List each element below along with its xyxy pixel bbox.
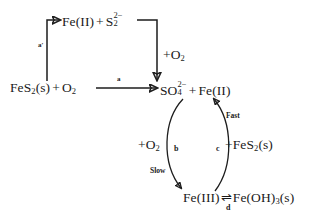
reagent-o2-cycle-symbol: +O: [138, 137, 156, 152]
edge-label-d: d: [226, 204, 230, 212]
plus-upper: +: [96, 14, 104, 29]
arrow-o2-vertical: [137, 20, 157, 80]
species-fe2-upper: Fe(II): [62, 14, 94, 29]
species-sulfate-symbol: SO: [160, 83, 177, 98]
species-pyrite-symbol: FeS: [10, 80, 31, 95]
reagent-fes2-cycle: +FeS2(s): [225, 138, 273, 153]
species-ferrihydroxide-state: (s): [280, 190, 295, 205]
disulfide-charge: 2−2: [113, 11, 122, 27]
speed-label-slow: Slow: [150, 167, 165, 175]
arrow-layer: [0, 0, 314, 219]
species-fe3: Fe(III): [183, 190, 220, 205]
edge-label-c: c: [216, 145, 220, 153]
node-product: SO2−4+Fe(II): [160, 81, 231, 98]
species-pyrite-state: (s): [36, 80, 51, 95]
edge-label-a: a: [117, 76, 121, 83]
reagent-o2-cycle-sub: 2: [156, 143, 160, 153]
reagent-o2-vertical: +O2: [163, 48, 185, 63]
reagent-o2-vertical-sub: 2: [181, 53, 185, 63]
edge-label-b: b: [174, 145, 178, 153]
node-reactant: FeS2(s)+O2: [10, 81, 76, 96]
reagent-fes2-state: (s): [258, 137, 273, 152]
sulfate-subscript: 4: [177, 88, 186, 96]
species-ferrihydroxide-symbol: Fe(OH): [233, 190, 276, 205]
disulfide-subscript: 2: [113, 19, 122, 27]
plus-product: +: [189, 83, 197, 98]
plus-reactant: +: [52, 80, 60, 95]
species-o2-sub: 2: [72, 86, 76, 96]
sulfate-charge: 2−4: [177, 80, 186, 96]
species-o2-symbol: O: [62, 80, 72, 95]
node-upper-intermediate: Fe(II)+S2−2: [62, 12, 123, 29]
reagent-o2-cycle: +O2: [138, 138, 160, 153]
species-fe2-product: Fe(II): [198, 83, 230, 98]
reagent-fes2-symbol: +FeS: [225, 137, 254, 152]
arrow-a-prime: [47, 20, 60, 81]
node-bottom: Fe(III)⇌Fe(OH)3(s): [183, 191, 294, 206]
reagent-o2-vertical-symbol: +O: [163, 47, 181, 62]
edge-label-a-prime: a′: [38, 42, 43, 49]
reaction-scheme-diagram: Fe(II)+S2−2 a′ +O2 FeS2(s)+O2 a SO2−4+Fe…: [0, 0, 314, 219]
speed-label-fast: Fast: [226, 112, 240, 120]
species-disulfide-symbol: S: [106, 14, 114, 29]
